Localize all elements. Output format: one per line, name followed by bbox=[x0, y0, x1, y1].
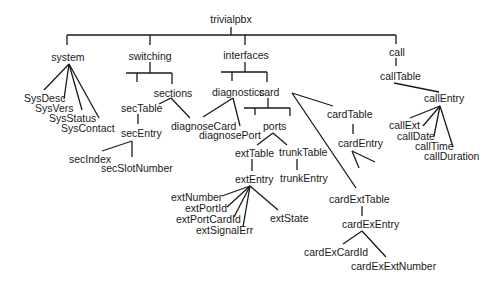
node-sectable: secTable bbox=[121, 102, 163, 114]
node-diagnoseport: diagnosePort bbox=[199, 129, 261, 141]
node-cardtable: cardTable bbox=[327, 108, 373, 120]
edge-sections-diagnosecard bbox=[171, 98, 190, 118]
edge-secentry-secindex bbox=[102, 141, 132, 151]
node-extstate: extState bbox=[270, 212, 309, 224]
mib-tree-diagram: trivialpbx system switching interfaces c… bbox=[0, 0, 485, 283]
node-system: system bbox=[51, 51, 85, 63]
edge-calltable-callentry bbox=[394, 83, 439, 92]
node-extsignalerr: extSignalErr bbox=[196, 224, 254, 236]
node-card: card bbox=[259, 86, 280, 98]
node-extentry: extEntry bbox=[235, 173, 274, 185]
node-interfaces: interfaces bbox=[223, 49, 269, 61]
node-cardexentry: cardExEntry bbox=[342, 218, 400, 230]
node-secentry: secEntry bbox=[121, 127, 163, 139]
node-calltable: callTable bbox=[380, 70, 421, 82]
node-trunkentry: trunkEntry bbox=[280, 172, 329, 184]
node-cardexcardid: cardExCardId bbox=[304, 246, 368, 258]
edge-cardexentry-cardexcardid bbox=[343, 231, 362, 244]
edge-extentry-extstate bbox=[250, 186, 278, 210]
node-call: call bbox=[389, 46, 405, 58]
node-exttable: extTable bbox=[235, 147, 274, 159]
node-sections: sections bbox=[154, 87, 193, 99]
edge-card-cardtable bbox=[292, 93, 333, 106]
tree-nodes: trivialpbx system switching interfaces c… bbox=[24, 13, 480, 272]
edge-diagnostics-diagnosecard bbox=[203, 98, 233, 117]
node-cardexttable: cardExtTable bbox=[329, 193, 390, 205]
node-callentry: callEntry bbox=[424, 92, 465, 104]
node-trunktable: trunkTable bbox=[279, 146, 328, 158]
node-callduration: callDuration bbox=[424, 150, 480, 162]
edge-ports-trunktable bbox=[273, 133, 287, 145]
node-secslotnumber: secSlotNumber bbox=[101, 162, 173, 174]
node-trivialpbx: trivialpbx bbox=[210, 13, 252, 25]
node-syscontact: SysContact bbox=[61, 122, 115, 134]
node-cardexextnumber: cardExExtNumber bbox=[351, 260, 437, 272]
node-diagnostics: diagnostics bbox=[212, 86, 265, 98]
node-ports: ports bbox=[263, 120, 286, 132]
node-switching: switching bbox=[128, 50, 171, 62]
node-cardentry: cardEntry bbox=[338, 137, 384, 149]
